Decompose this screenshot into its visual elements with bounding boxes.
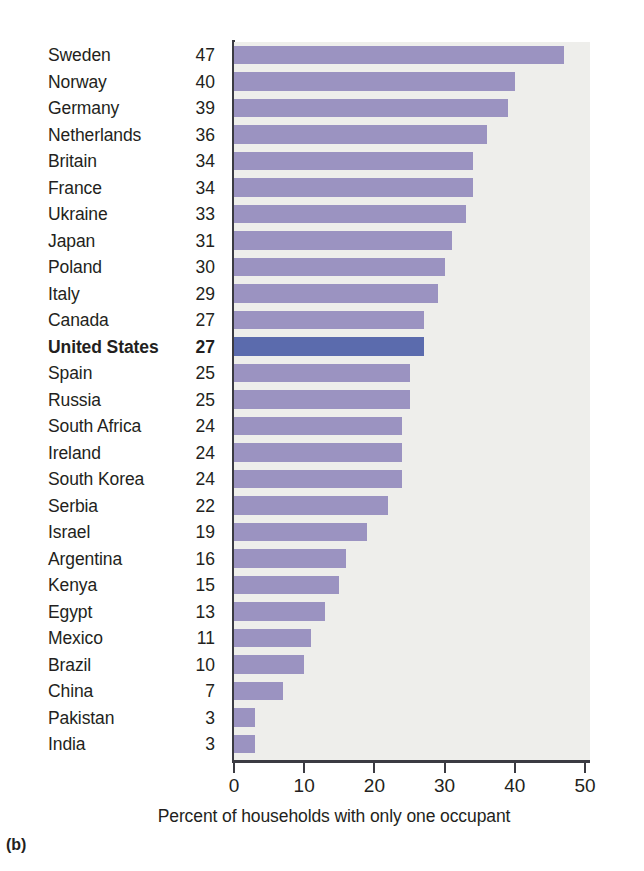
category-name: Serbia xyxy=(48,493,98,520)
category-label-row: Italy29 xyxy=(0,281,226,308)
x-axis-caption: Percent of households with only one occu… xyxy=(0,806,644,827)
category-name: Ireland xyxy=(48,440,101,467)
plot-area xyxy=(234,42,590,761)
category-label-row: Spain25 xyxy=(0,360,226,387)
category-label-row: Ireland24 xyxy=(0,440,226,467)
category-value: 36 xyxy=(150,122,215,149)
category-label-row: France34 xyxy=(0,175,226,202)
category-value: 24 xyxy=(150,466,215,493)
bar xyxy=(234,152,473,171)
category-value: 16 xyxy=(150,546,215,573)
category-value: 19 xyxy=(150,519,215,546)
bar xyxy=(234,72,515,91)
category-value: 34 xyxy=(150,175,215,202)
category-name: Israel xyxy=(48,519,90,546)
bar xyxy=(234,549,346,568)
x-tick-label: 30 xyxy=(415,775,475,797)
category-value: 33 xyxy=(150,201,215,228)
category-name: Pakistan xyxy=(48,705,114,732)
category-name: United States xyxy=(48,334,159,361)
x-tick-label: 0 xyxy=(204,775,264,797)
category-value: 3 xyxy=(150,705,215,732)
bar xyxy=(234,364,410,383)
category-label-row: Egypt13 xyxy=(0,599,226,626)
category-name: Russia xyxy=(48,387,101,414)
bar xyxy=(234,46,564,65)
bar xyxy=(234,311,424,330)
x-tick-mark xyxy=(303,762,305,773)
category-name: Mexico xyxy=(48,625,103,652)
category-value: 13 xyxy=(150,599,215,626)
category-value: 24 xyxy=(150,440,215,467)
category-name: South Africa xyxy=(48,413,141,440)
bar xyxy=(234,708,255,727)
category-value: 3 xyxy=(150,731,215,758)
x-tick-mark xyxy=(514,762,516,773)
bar xyxy=(234,655,304,674)
category-name: Italy xyxy=(48,281,80,308)
bar xyxy=(234,284,438,303)
bar xyxy=(234,629,311,648)
category-label-row: Russia25 xyxy=(0,387,226,414)
category-value: 27 xyxy=(150,334,215,361)
category-label-row: Japan31 xyxy=(0,228,226,255)
x-tick-mark xyxy=(233,762,235,773)
panel-label: (b) xyxy=(6,836,26,854)
category-label-row: South Korea24 xyxy=(0,466,226,493)
category-value: 31 xyxy=(150,228,215,255)
category-name: Poland xyxy=(48,254,102,281)
x-tick-label: 10 xyxy=(274,775,334,797)
category-name: South Korea xyxy=(48,466,144,493)
category-name: France xyxy=(48,175,102,202)
x-tick-mark xyxy=(373,762,375,773)
bar xyxy=(234,496,388,515)
category-label-row: Poland30 xyxy=(0,254,226,281)
category-value: 25 xyxy=(150,360,215,387)
category-label-row: Kenya15 xyxy=(0,572,226,599)
x-tick-mark xyxy=(584,762,586,773)
category-label-row: India3 xyxy=(0,731,226,758)
category-label-row: Israel19 xyxy=(0,519,226,546)
category-label-row: Ukraine33 xyxy=(0,201,226,228)
bar xyxy=(234,258,445,277)
bar xyxy=(234,178,473,197)
bar xyxy=(234,523,367,542)
category-name: India xyxy=(48,731,85,758)
category-name: Ukraine xyxy=(48,201,108,228)
category-label-row: Brazil10 xyxy=(0,652,226,679)
category-name: Argentina xyxy=(48,546,122,573)
category-value: 15 xyxy=(150,572,215,599)
bar xyxy=(234,390,410,409)
category-name: Britain xyxy=(48,148,97,175)
bar xyxy=(234,576,339,595)
bar xyxy=(234,602,325,621)
category-value: 24 xyxy=(150,413,215,440)
category-name: Sweden xyxy=(48,42,111,69)
category-name: Canada xyxy=(48,307,109,334)
bar xyxy=(234,443,402,462)
category-name: China xyxy=(48,678,93,705)
category-label-row: Canada27 xyxy=(0,307,226,334)
category-label-column: Sweden47Norway40Germany39Netherlands36Br… xyxy=(0,42,226,758)
category-name: Spain xyxy=(48,360,92,387)
category-value: 40 xyxy=(150,69,215,96)
bar xyxy=(234,337,424,356)
category-value: 39 xyxy=(150,95,215,122)
category-value: 27 xyxy=(150,307,215,334)
bar xyxy=(234,99,508,118)
category-value: 47 xyxy=(150,42,215,69)
x-tick-label: 40 xyxy=(485,775,545,797)
category-name: Kenya xyxy=(48,572,97,599)
category-label-row: Norway40 xyxy=(0,69,226,96)
category-label-row: South Africa24 xyxy=(0,413,226,440)
category-name: Norway xyxy=(48,69,107,96)
category-label-row: Argentina16 xyxy=(0,546,226,573)
category-value: 34 xyxy=(150,148,215,175)
category-label-row: Germany39 xyxy=(0,95,226,122)
category-label-row: Sweden47 xyxy=(0,42,226,69)
figure-panel-b: Sweden47Norway40Germany39Netherlands36Br… xyxy=(0,0,644,871)
category-name: Japan xyxy=(48,228,95,255)
category-label-row: Mexico11 xyxy=(0,625,226,652)
category-value: 30 xyxy=(150,254,215,281)
bar xyxy=(234,417,402,436)
